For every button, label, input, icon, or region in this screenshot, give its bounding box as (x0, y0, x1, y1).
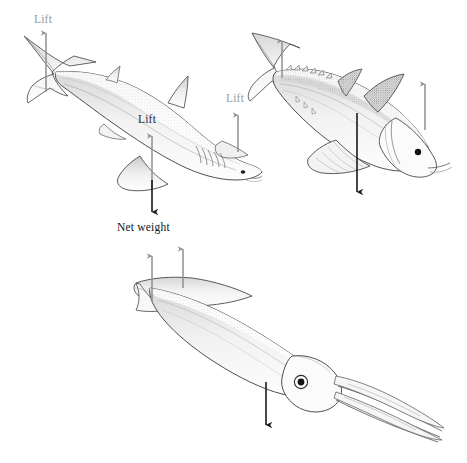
squid-illustration (134, 249, 444, 442)
shark-body-lift-label: Lift (138, 113, 156, 125)
shark-net-weight-label: Net weight (117, 221, 170, 233)
tuna-illustration (248, 33, 452, 192)
shark-tail-lift-label: Lift (34, 13, 52, 25)
illustration-canvas (0, 0, 467, 463)
scientific-illustration-figure: Lift Lift Lift Net weight (0, 0, 467, 463)
shark-pectoral-lift-label: Lift (226, 92, 244, 104)
